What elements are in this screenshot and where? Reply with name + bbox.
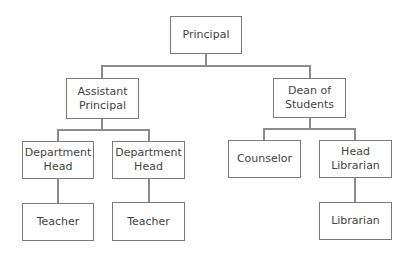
node-counselor: Counselor	[228, 140, 301, 178]
node-department-head-1: Department Head	[22, 141, 94, 179]
connector-to-department-head-1	[57, 129, 59, 141]
connector-to-counselor	[263, 128, 265, 140]
connector-level2-left-horizontal	[57, 129, 150, 131]
node-librarian: Librarian	[319, 202, 392, 240]
node-principal: Principal	[170, 16, 242, 54]
connector-to-librarian	[354, 177, 356, 202]
connector-to-assistant-principal	[101, 65, 103, 78]
node-assistant-principal: Assistant Principal	[66, 78, 139, 119]
node-department-head-2: Department Head	[112, 141, 185, 179]
connector-to-teacher-2	[148, 178, 150, 202]
node-teacher-2: Teacher	[112, 202, 185, 241]
node-teacher-1: Teacher	[22, 203, 94, 241]
connector-to-head-librarian	[354, 128, 356, 140]
connector-to-department-head-2	[148, 129, 150, 141]
connector-to-teacher-1	[57, 178, 59, 203]
node-head-librarian: Head Librarian	[319, 140, 392, 178]
connector-to-dean	[309, 65, 311, 78]
org-chart: Principal Assistant Principal Dean of St…	[0, 0, 410, 256]
node-dean-of-students: Dean of Students	[273, 78, 346, 118]
connector-level2-right-horizontal	[263, 128, 356, 130]
connector-level1-horizontal	[101, 65, 311, 67]
